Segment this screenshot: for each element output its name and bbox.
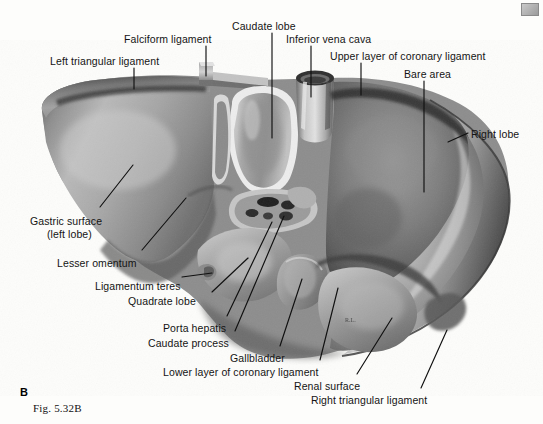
label-right-lobe: Right lobe xyxy=(471,128,519,140)
figure-caption: Fig. 5.32B xyxy=(33,402,82,414)
label-gastric-surface: Gastric surface xyxy=(30,215,102,227)
label-caudate-lobe: Caudate lobe xyxy=(232,20,296,32)
grain-overlay xyxy=(36,70,516,366)
label-lesser-omentum: Lesser omentum xyxy=(57,257,137,269)
label-lower-layer-coronary-ligament: Lower layer of coronary ligament xyxy=(163,366,319,378)
corner-scroll-marker[interactable] xyxy=(521,3,539,16)
label-left-triangular-ligament: Left triangular ligament xyxy=(50,55,159,67)
label-falciform-ligament: Falciform ligament xyxy=(124,33,212,45)
label-porta-hepatis: Porta hepatis xyxy=(163,322,226,334)
label-caudate-process: Caudate process xyxy=(148,337,229,349)
liver-body xyxy=(36,62,516,366)
artist-signature: R.L. xyxy=(345,317,356,323)
label-gallbladder: Gallbladder xyxy=(230,352,285,364)
label-ligamentum-teres: Ligamentum teres xyxy=(95,280,181,292)
label-gastric-surface-sub: (left lobe) xyxy=(47,228,92,240)
label-right-triangular-ligament: Right triangular ligament xyxy=(311,394,427,406)
label-quadrate-lobe: Quadrate lobe xyxy=(128,295,196,307)
label-renal-surface: Renal surface xyxy=(294,380,360,392)
figure-root: R.L. Falciform ligamentCaudate lobeInfer… xyxy=(0,0,543,424)
label-bare-area: Bare area xyxy=(404,68,451,80)
panel-letter: B xyxy=(20,386,28,398)
label-upper-layer-coronary-ligament: Upper layer of coronary ligament xyxy=(330,50,486,62)
label-inferior-vena-cava: Inferior vena cava xyxy=(286,33,371,45)
